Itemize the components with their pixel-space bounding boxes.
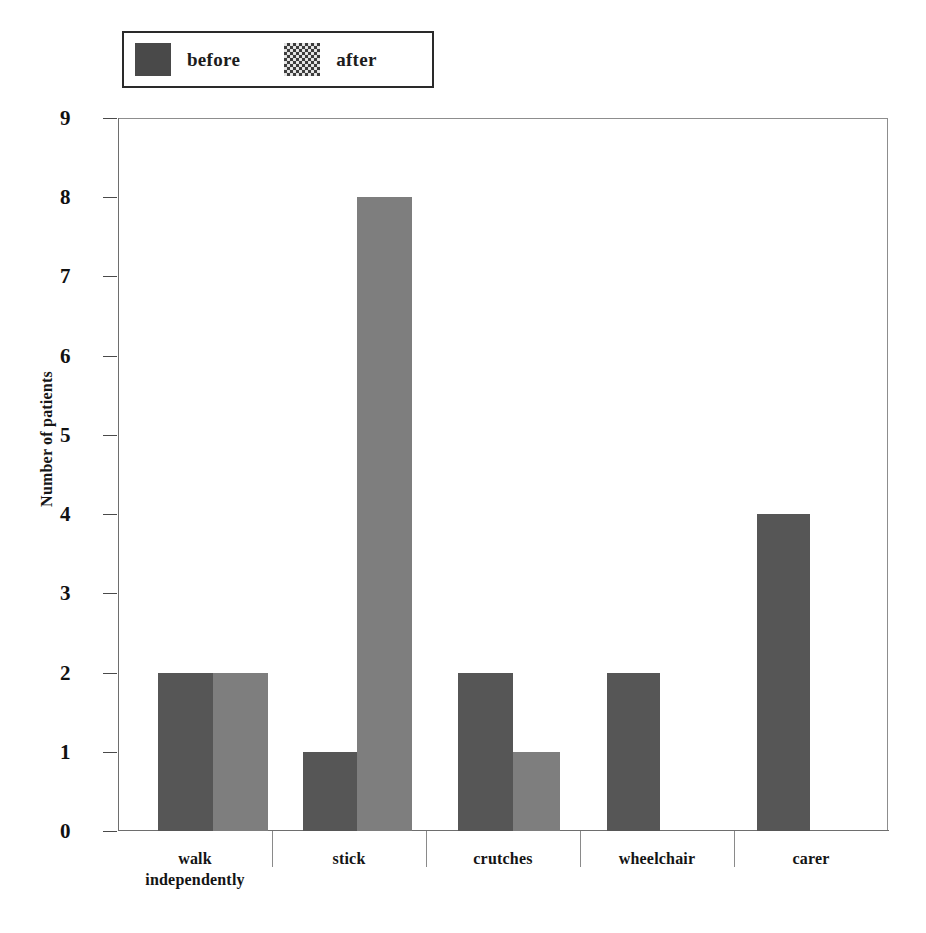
x-axis-label-wheelchair: wheelchair bbox=[580, 848, 734, 869]
x-axis-label-crutches: crutches bbox=[426, 848, 580, 869]
y-tick-mark bbox=[103, 752, 117, 753]
bar-crutches-after bbox=[513, 752, 560, 831]
x-axis-label-line2: independently bbox=[118, 869, 272, 890]
y-tick-label: 8 bbox=[60, 185, 71, 210]
bar-wheelchair-before bbox=[607, 673, 660, 831]
x-axis-label-line1: walk bbox=[118, 848, 272, 869]
chart-legend: before after bbox=[122, 31, 434, 88]
legend-label-after: after bbox=[336, 49, 377, 71]
x-axis-label-line1: crutches bbox=[426, 848, 580, 869]
x-axis-label-walk: walkindependently bbox=[118, 848, 272, 890]
y-tick-mark bbox=[103, 197, 117, 198]
y-tick-mark bbox=[103, 673, 117, 674]
y-tick-mark bbox=[103, 118, 117, 119]
x-axis-label-line1: carer bbox=[734, 848, 888, 869]
bar-crutches-before bbox=[458, 673, 513, 831]
y-tick-label: 5 bbox=[60, 423, 71, 448]
dotted-pattern-swatch-icon bbox=[284, 43, 320, 76]
y-tick-label: 9 bbox=[60, 106, 71, 131]
y-axis-title: Number of patients bbox=[38, 324, 56, 554]
bars-layer bbox=[118, 118, 888, 831]
bar-walk-independently-before bbox=[158, 673, 213, 831]
y-tick-label: 1 bbox=[60, 740, 71, 765]
y-tick-label: 0 bbox=[60, 819, 71, 844]
solid-dark-swatch-icon bbox=[135, 43, 171, 76]
y-tick-label: 7 bbox=[60, 264, 71, 289]
y-tick-label: 2 bbox=[60, 661, 71, 686]
x-axis-label-line1: wheelchair bbox=[580, 848, 734, 869]
y-tick-mark bbox=[103, 276, 117, 277]
y-tick-label: 6 bbox=[60, 344, 71, 369]
y-tick-mark bbox=[103, 831, 117, 832]
x-axis-label-stick: stick bbox=[272, 848, 426, 869]
y-tick-mark bbox=[103, 593, 117, 594]
y-tick-label: 4 bbox=[60, 502, 71, 527]
legend-label-before: before bbox=[187, 49, 240, 71]
legend-entry-before: before bbox=[135, 43, 240, 76]
y-tick-mark bbox=[103, 435, 117, 436]
y-tick-label: 3 bbox=[60, 581, 71, 606]
x-axis-label-carer: carer bbox=[734, 848, 888, 869]
bar-stick-after bbox=[357, 197, 412, 831]
bar-stick-before bbox=[303, 752, 357, 831]
bar-chart-figure: before after Number of patients 98765432… bbox=[0, 0, 926, 933]
y-tick-mark bbox=[103, 356, 117, 357]
y-tick-mark bbox=[103, 514, 117, 515]
legend-entry-after: after bbox=[284, 43, 377, 76]
bar-walk-independently-after bbox=[213, 673, 268, 831]
x-axis-label-line1: stick bbox=[272, 848, 426, 869]
bar-carer-before bbox=[757, 514, 810, 831]
